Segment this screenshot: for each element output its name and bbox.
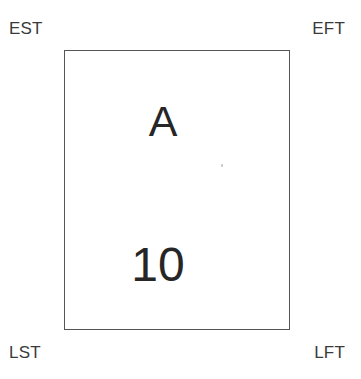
- activity-node-diagram: EST EFT A 10 LST LFT: [0, 0, 361, 379]
- activity-node-box: A 10: [64, 50, 290, 330]
- activity-name: A: [65, 100, 261, 143]
- label-earliest-start-time: EST: [9, 20, 43, 37]
- label-latest-finish-time: LFT: [314, 344, 345, 361]
- scan-artifact-speck: [221, 164, 223, 167]
- activity-duration: 10: [65, 241, 251, 289]
- label-latest-start-time: LST: [9, 344, 41, 361]
- label-earliest-finish-time: EFT: [312, 20, 345, 37]
